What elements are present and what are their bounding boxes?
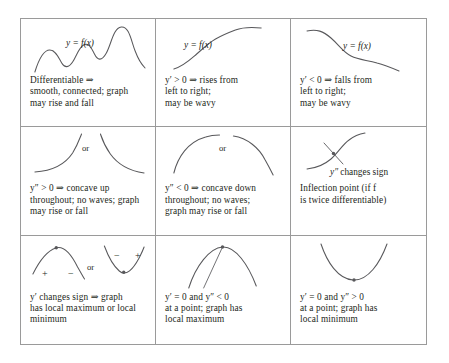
caption-second-derivative-negative: y″ < 0 ⇒ concave down throughout; no wav…: [165, 183, 286, 217]
caption-differentiable: Differentiable ⇒ smooth, connected; grap…: [30, 75, 151, 109]
curve-label: y = f(x): [343, 41, 371, 51]
cell-differentiable: y = f(x) Differentiable ⇒ smooth, connec…: [21, 19, 156, 127]
caption-line: throughout; no waves; graph: [30, 195, 151, 206]
cell-first-derivative-positive: y = f(x) y′ > 0 ⇒ rises from left to rig…: [156, 19, 291, 127]
sign-minus-right: −: [114, 250, 120, 261]
caption-first-derivative-negative: y′ < 0 ⇒ falls from left to right; may b…: [300, 75, 422, 109]
caption-line: y′ > 0 ⇒ rises from: [165, 75, 286, 86]
caption-line: may be wavy: [300, 98, 422, 109]
y-double-prime-symbol: y″: [330, 167, 338, 177]
caption-line: at a point; graph has: [165, 303, 286, 314]
or-label: or: [82, 143, 89, 153]
inflection-inline-label: y″ changes sign: [330, 167, 388, 177]
rising-wavy-curve-sketch: [156, 19, 290, 75]
or-label: or: [219, 143, 226, 153]
caption-line: y′ changes sign ⇒ graph: [30, 292, 151, 303]
caption-local-maximum: y′ = 0 and y″ < 0 at a point; graph has …: [165, 292, 286, 326]
sign-minus-left: −: [68, 268, 74, 279]
derivative-behavior-table: y = f(x) Differentiable ⇒ smooth, connec…: [20, 18, 427, 345]
cell-local-maximum: y′ = 0 and y″ < 0 at a point; graph has …: [156, 236, 291, 344]
local-minimum-curve-sketch: [291, 236, 426, 292]
cell-local-minimum: y′ = 0 and y″ > 0 at a point; graph has …: [291, 236, 426, 344]
sign-plus-right: +: [135, 250, 141, 261]
concave-up-pair-curve-sketch: [21, 127, 155, 183]
curve-label: y = f(x): [66, 38, 94, 48]
caption-line: is twice differentiable): [300, 195, 422, 206]
caption-line: local minimum: [300, 314, 422, 325]
caption-first-derivative-sign-change: y′ changes sign ⇒ graph has local maximu…: [30, 292, 151, 326]
caption-line: y′ = 0 and y″ < 0: [165, 292, 286, 303]
caption-first-derivative-positive: y′ > 0 ⇒ rises from left to right; may b…: [165, 75, 286, 109]
curve-label: y = f(x): [184, 40, 212, 50]
cell-second-derivative-negative: or y″ < 0 ⇒ concave down throughout; no …: [156, 127, 291, 235]
cell-inflection-point: y″ changes sign Inflection point (if f i…: [291, 127, 426, 235]
caption-line: Differentiable ⇒: [30, 75, 151, 86]
caption-line: minimum: [30, 314, 151, 325]
caption-inflection-point: Inflection point (if f is twice differen…: [300, 183, 422, 206]
caption-second-derivative-positive: y″ > 0 ⇒ concave up throughout; no waves…: [30, 183, 151, 217]
caption-line: may rise and fall: [30, 98, 151, 109]
caption-line: may rise or fall: [30, 206, 151, 217]
sign-plus-left: +: [42, 268, 48, 279]
caption-line: local maximum: [165, 314, 286, 325]
concave-down-pair-curve-sketch: [156, 127, 290, 183]
caption-local-minimum: y′ = 0 and y″ > 0 at a point; graph has …: [300, 292, 422, 326]
cell-first-derivative-negative: y = f(x) y′ < 0 ⇒ falls from left to rig…: [291, 19, 426, 127]
caption-line: Inflection point (if f: [300, 183, 422, 194]
caption-line: may be wavy: [165, 98, 286, 109]
or-label: or: [87, 262, 94, 272]
caption-line: y′ = 0 and y″ > 0: [300, 292, 422, 303]
caption-line: graph may rise or fall: [165, 206, 286, 217]
local-maximum-curve-sketch: [156, 236, 290, 292]
caption-line: y″ > 0 ⇒ concave up: [30, 183, 151, 194]
caption-line: left to right;: [165, 86, 286, 97]
caption-line: y″ < 0 ⇒ concave down: [165, 183, 286, 194]
caption-line: y′ < 0 ⇒ falls from: [300, 75, 422, 86]
cell-first-derivative-sign-change: + − or − + y′ changes sign ⇒ graph has l…: [21, 236, 156, 344]
caption-line: has local maximum or local: [30, 303, 151, 314]
caption-line: smooth, connected; graph: [30, 86, 151, 97]
caption-line: left to right;: [300, 86, 422, 97]
caption-line: throughout; no waves;: [165, 195, 286, 206]
caption-line: at a point; graph has: [300, 303, 422, 314]
cell-second-derivative-positive: or y″ > 0 ⇒ concave up throughout; no wa…: [21, 127, 156, 235]
